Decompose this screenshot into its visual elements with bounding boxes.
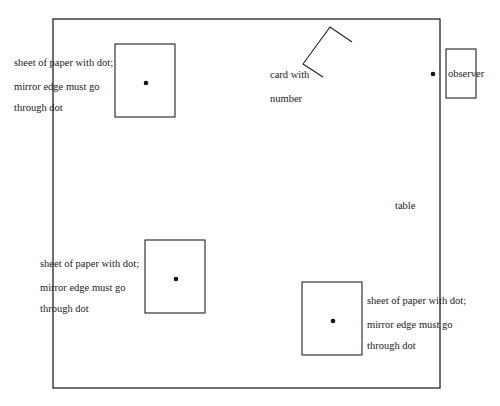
label-sheet-bottom-right: sheet of paper with dot; mirror edge mus…: [367, 294, 466, 352]
label-table: table: [395, 199, 415, 212]
dot-sheet-bottom-right: [331, 319, 336, 324]
label-sheet-bottom-left: sheet of paper with dot; mirror edge mus…: [40, 257, 139, 315]
sheet-bottom-right: [302, 282, 362, 355]
dot-sheet-bottom-left: [174, 277, 179, 282]
label-card-with-number: card with number: [270, 68, 309, 105]
label-observer: observer: [448, 67, 484, 80]
sheet-top-left: [115, 44, 175, 117]
observer-eye-dot: [431, 72, 436, 77]
dot-sheet-top-left: [144, 81, 149, 86]
label-sheet-top-left: sheet of paper with dot; mirror edge mus…: [14, 56, 113, 114]
card-with-number-shape: [303, 27, 352, 77]
sheet-bottom-left: [145, 240, 205, 313]
